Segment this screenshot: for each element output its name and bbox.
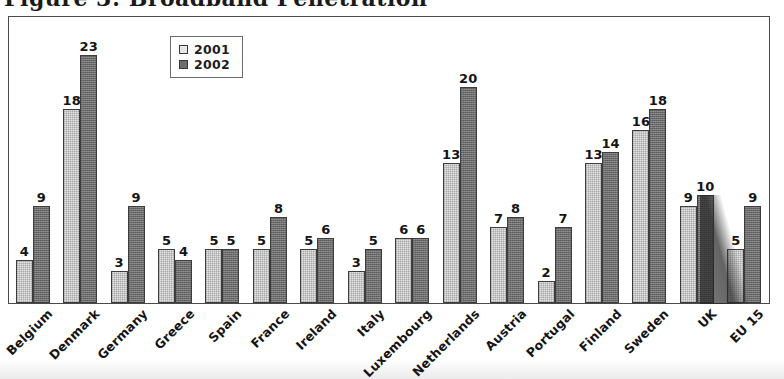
bar-2001 xyxy=(443,163,460,303)
figure-title-clipped: Figure 3: Broadband Penetration xyxy=(0,0,784,13)
legend-label-2002: 2002 xyxy=(194,57,230,72)
bar-2002 xyxy=(222,249,239,303)
bar-2002 xyxy=(175,260,192,303)
x-axis-label: Ireland xyxy=(293,306,340,353)
bar-2001 xyxy=(205,249,222,303)
x-axis-label: Greece xyxy=(151,306,197,352)
x-axis-label: Sweden xyxy=(621,306,672,357)
bar-group: 58 xyxy=(253,17,287,303)
bar-group: 1823 xyxy=(63,17,97,303)
bar-2001 xyxy=(538,281,555,303)
bar-2002 xyxy=(412,238,429,303)
bar-2002 xyxy=(602,152,619,303)
bar-2001 xyxy=(111,271,128,303)
bar-group: 1314 xyxy=(585,17,619,303)
bar-2001 xyxy=(16,260,33,303)
bar-group: 56 xyxy=(300,17,334,303)
x-axis-label: France xyxy=(248,306,293,351)
bar-value-label: 5 xyxy=(217,233,244,248)
x-axis-label: Finland xyxy=(576,306,625,355)
bar-value-label: 6 xyxy=(407,222,434,237)
bar-2002 xyxy=(555,227,572,303)
bar-value-label: 9 xyxy=(28,190,55,205)
bar-2002 xyxy=(33,206,50,303)
bar-2002 xyxy=(270,217,287,303)
chart-legend: 2001 2002 xyxy=(170,36,243,78)
x-axis-label: Portugal xyxy=(523,306,577,360)
bar-value-label: 8 xyxy=(265,201,292,216)
bar-2002 xyxy=(649,109,666,303)
bar-value-label: 8 xyxy=(502,201,529,216)
legend-swatch-2002-icon xyxy=(179,60,188,69)
bar-group: 39 xyxy=(111,17,145,303)
bar-group: 910 xyxy=(680,17,714,303)
x-axis-label: EU 15 xyxy=(727,306,767,346)
legend-item-2001: 2001 xyxy=(179,42,230,57)
x-axis-label: Austria xyxy=(482,306,530,354)
bar-2001 xyxy=(253,249,270,303)
bar-2001 xyxy=(585,163,602,303)
x-axis-label: Denmark xyxy=(46,306,103,363)
bar-group: 1320 xyxy=(443,17,477,303)
bar-group: 78 xyxy=(490,17,524,303)
bar-2002 xyxy=(460,87,477,303)
bar-value-label: 7 xyxy=(550,211,577,226)
bar-group: 59 xyxy=(727,17,761,303)
x-axis-label: Germany xyxy=(94,306,150,362)
bar-group: 35 xyxy=(348,17,382,303)
bar-value-label: 14 xyxy=(597,136,624,151)
legend-label-2001: 2001 xyxy=(194,42,230,57)
bar-value-label: 9 xyxy=(739,190,766,205)
legend-item-2002: 2002 xyxy=(179,57,230,72)
bar-2002 xyxy=(697,195,714,303)
bar-2001 xyxy=(727,249,744,303)
bar-2002 xyxy=(80,55,97,303)
x-axis-label: Spain xyxy=(206,306,245,345)
bars-container: 4918233954555856356613207827131416189105… xyxy=(9,17,768,303)
bar-group: 66 xyxy=(395,17,429,303)
bar-value-label: 20 xyxy=(455,71,482,86)
bar-2001 xyxy=(395,238,412,303)
bar-value-label: 18 xyxy=(644,93,671,108)
x-axis-labels: BelgiumDenmarkGermanyGreeceSpainFranceIr… xyxy=(9,306,768,376)
bar-value-label: 4 xyxy=(170,244,197,259)
bar-2002 xyxy=(128,206,145,303)
bar-2001 xyxy=(300,249,317,303)
x-axis-label: UK xyxy=(695,306,720,331)
bar-2002 xyxy=(744,206,761,303)
x-axis-label: Italy xyxy=(354,306,388,340)
bar-2002 xyxy=(507,217,524,303)
bar-value-label: 6 xyxy=(312,222,339,237)
bar-value-label: 9 xyxy=(123,190,150,205)
bar-chart-figure: Figure 3: Broadband Penetration 49182339… xyxy=(0,0,784,379)
bar-value-label: 10 xyxy=(692,179,719,194)
bar-group: 49 xyxy=(16,17,50,303)
bar-group: 27 xyxy=(538,17,572,303)
bar-2001 xyxy=(348,271,365,303)
bar-2001 xyxy=(490,227,507,303)
bar-2001 xyxy=(63,109,80,303)
page-title: Figure 3: Broadband Penetration xyxy=(4,0,428,11)
bar-value-label: 23 xyxy=(75,39,102,54)
bar-2002 xyxy=(317,238,334,303)
bar-2001 xyxy=(680,206,697,303)
bar-2002 xyxy=(365,249,382,303)
bar-group: 1618 xyxy=(632,17,666,303)
bar-value-label: 5 xyxy=(360,233,387,248)
bar-2001 xyxy=(632,130,649,303)
legend-swatch-2001-icon xyxy=(179,45,188,54)
